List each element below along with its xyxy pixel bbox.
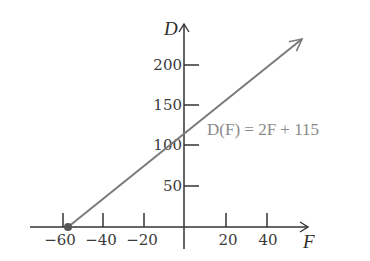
x-tick-label: −20 xyxy=(126,231,158,249)
y-tick-label: 200 xyxy=(153,56,182,74)
x-tick-label: −60 xyxy=(44,231,76,249)
start-point-dot xyxy=(64,223,72,231)
x-axis-label: F xyxy=(302,231,315,252)
y-axis-label: D xyxy=(163,18,178,39)
x-tick-label: 40 xyxy=(258,231,277,249)
y-tick-label: 150 xyxy=(153,96,182,114)
y-tick-label: 50 xyxy=(163,177,182,195)
chart-canvas: −60 −40 −20 20 40 200 150 100 50 D F D(F… xyxy=(0,0,370,261)
x-ticks xyxy=(63,213,267,227)
x-tick-label: 20 xyxy=(218,231,237,249)
y-ticks xyxy=(184,65,199,186)
x-tick-label: −40 xyxy=(85,231,117,249)
equation-label: D(F) = 2F + 115 xyxy=(207,120,319,139)
